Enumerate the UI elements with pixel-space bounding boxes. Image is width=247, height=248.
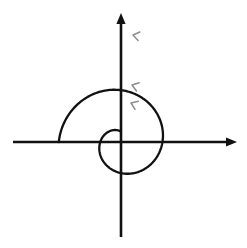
spiral-figure <box>0 0 247 248</box>
figure-background <box>0 0 247 248</box>
figure-canvas <box>0 0 247 248</box>
